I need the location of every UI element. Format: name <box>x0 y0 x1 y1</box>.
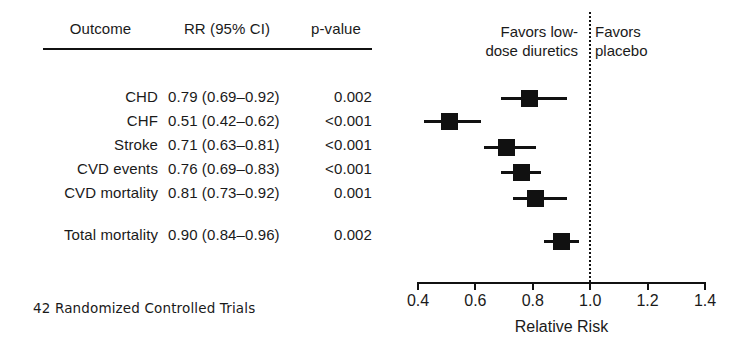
x-tick <box>474 282 476 290</box>
x-tick <box>532 282 534 290</box>
x-tick-label: 1.0 <box>570 292 610 310</box>
cell-pvalue: <0.001 <box>292 112 372 129</box>
cell-pvalue: <0.001 <box>292 160 372 177</box>
cell-outcome: CVD events <box>0 160 158 177</box>
table-row: CHF 0.51 (0.42–0.62) <0.001 <box>0 112 372 132</box>
trials-footnote: 42 Randomized Controlled Trials <box>33 300 255 316</box>
x-tick <box>704 282 706 290</box>
cell-pvalue: <0.001 <box>292 136 372 153</box>
favors-treatment-label: Favors low- dose diuretics <box>402 22 578 60</box>
cell-pvalue: 0.002 <box>292 226 372 243</box>
point-estimate-marker <box>498 139 515 156</box>
forest-plot-area: Favors low- dose diuretics Favors placeb… <box>400 0 741 351</box>
cell-rr: 0.81 (0.73–0.92) <box>168 184 291 201</box>
column-header-outcome: Outcome <box>43 20 158 37</box>
point-estimate-marker <box>513 164 530 181</box>
x-tick <box>589 282 591 290</box>
x-axis-title: Relative Risk <box>418 318 705 336</box>
favors-left-line1: Favors low- <box>500 23 578 40</box>
table-row: CVD mortality 0.81 (0.73–0.92) 0.001 <box>0 184 372 204</box>
column-header-rr: RR (95% CI) <box>163 20 291 37</box>
results-table: Outcome RR (95% CI) p-value CHD 0.79 (0.… <box>0 0 400 351</box>
x-tick-label: 1.4 <box>685 292 725 310</box>
favors-left-line2: dose diuretics <box>485 42 578 59</box>
point-estimate-marker <box>527 190 544 207</box>
x-axis-line <box>418 282 705 284</box>
cell-rr: 0.90 (0.84–0.96) <box>168 226 291 243</box>
table-row: CVD events 0.76 (0.69–0.83) <0.001 <box>0 160 372 180</box>
favors-placebo-label: Favors placebo <box>595 22 715 60</box>
cell-pvalue: 0.002 <box>292 88 372 105</box>
point-estimate-marker <box>553 233 570 250</box>
table-row: Stroke 0.71 (0.63–0.81) <0.001 <box>0 136 372 156</box>
x-tick-label: 0.4 <box>398 292 438 310</box>
favors-right-line1: Favors <box>595 23 641 40</box>
null-effect-reference-line <box>589 12 591 282</box>
column-header-pvalue: p-value <box>300 20 372 37</box>
cell-rr: 0.71 (0.63–0.81) <box>168 136 291 153</box>
cell-outcome: CHF <box>0 112 158 129</box>
table-row: Total mortality 0.90 (0.84–0.96) 0.002 <box>0 226 372 246</box>
x-tick-label: 1.2 <box>628 292 668 310</box>
cell-rr: 0.76 (0.69–0.83) <box>168 160 291 177</box>
x-tick <box>647 282 649 290</box>
x-tick <box>417 282 419 290</box>
cell-pvalue: 0.001 <box>292 184 372 201</box>
forest-plot-figure: Outcome RR (95% CI) p-value CHD 0.79 (0.… <box>0 0 741 351</box>
point-estimate-marker <box>521 90 538 107</box>
cell-outcome: Stroke <box>0 136 158 153</box>
cell-outcome: CVD mortality <box>0 184 158 201</box>
x-tick-label: 0.8 <box>513 292 553 310</box>
cell-rr: 0.51 (0.42–0.62) <box>168 112 291 129</box>
x-tick-label: 0.6 <box>455 292 495 310</box>
cell-outcome: Total mortality <box>0 226 158 243</box>
favors-right-line2: placebo <box>595 42 648 59</box>
cell-outcome: CHD <box>0 88 158 105</box>
point-estimate-marker <box>441 113 458 130</box>
table-row: CHD 0.79 (0.69–0.92) 0.002 <box>0 88 372 108</box>
cell-rr: 0.79 (0.69–0.92) <box>168 88 291 105</box>
table-header-rule <box>43 48 372 50</box>
